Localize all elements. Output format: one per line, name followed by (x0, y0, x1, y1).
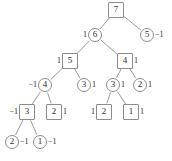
tree-edge (31, 120, 37, 134)
tree-node-n3a: 3 (77, 78, 91, 92)
tree-edge (101, 40, 118, 55)
tree-node-value: 3 (82, 80, 87, 89)
balance-factor-label-n2s2: 1 (0, 108, 95, 116)
tree-node-n1b: 1 (33, 135, 47, 149)
tree-edge (48, 93, 52, 104)
tree-edge (117, 69, 121, 78)
tree-node-value: 3 (111, 80, 116, 89)
tree-node-n7: 7 (108, 2, 124, 18)
tree-edge (117, 92, 126, 105)
tree-edge (51, 67, 64, 79)
balance-factor-label-n3b: 1 (121, 81, 125, 89)
tree-node-n2s2: 2 (96, 104, 112, 120)
tree-node-value: 2 (138, 80, 143, 89)
tree-edge (76, 41, 89, 55)
tree-node-value: 4 (123, 56, 128, 65)
balance-factor-label-n1b: −1 (48, 138, 57, 146)
tree-node-n5: 5 (62, 53, 78, 69)
tree-node-n4c: 4 (38, 78, 52, 92)
tree-node-value: 5 (145, 30, 150, 39)
tree-node-value: 1 (38, 137, 43, 146)
tree-node-n2c: 2 (133, 78, 147, 92)
tree-node-n4s: 4 (117, 53, 133, 69)
balance-factor-label-n1s: 1 (140, 108, 144, 116)
tree-node-n3b: 3 (106, 78, 120, 92)
balance-factor-label-n6: 1 (0, 31, 87, 39)
balance-factor-label-n5: 1 (0, 57, 61, 65)
tree-edge (75, 69, 80, 78)
balance-factor-label-n5r: −1 (155, 31, 164, 39)
balance-factor-label-n4s: 1 (134, 57, 138, 65)
tree-node-value: 2 (10, 137, 15, 146)
tree-node-value: 6 (93, 30, 98, 39)
tree-edge (32, 92, 41, 105)
tree-edge (100, 17, 110, 29)
tree-node-n5r: 5 (140, 28, 154, 42)
tree-node-n1s: 1 (123, 104, 139, 120)
tree-node-value: 2 (102, 107, 107, 116)
binary-tree-diagram: 7615−151414−13131213−12121112−11−1 (0, 0, 172, 161)
tree-node-value: 7 (114, 5, 119, 14)
tree-node-value: 5 (68, 56, 73, 65)
tree-edge (130, 69, 136, 79)
balance-factor-label-n4c: −1 (0, 81, 37, 89)
tree-edge (16, 120, 23, 135)
tree-node-value: 4 (43, 80, 48, 89)
balance-factor-label-n3a: 1 (92, 81, 96, 89)
balance-factor-label-n2b: −1 (20, 138, 29, 146)
balance-factor-label-n2c: 1 (148, 81, 152, 89)
tree-edge (123, 16, 141, 30)
tree-node-n6: 6 (88, 28, 102, 42)
tree-edge (107, 93, 111, 104)
tree-node-value: 1 (129, 107, 134, 116)
tree-node-n2b: 2 (5, 135, 19, 149)
